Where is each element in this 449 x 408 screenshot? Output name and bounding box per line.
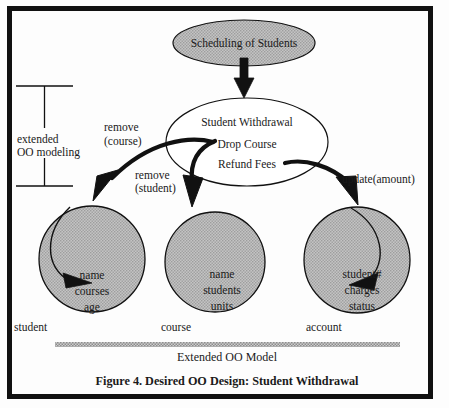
account-circle-shape — [304, 207, 410, 313]
figure-caption: Figure 4. Desired OO Design: Student Wit… — [96, 374, 359, 388]
account-attribute-1: charges — [345, 284, 380, 297]
student-attribute-0: name — [80, 269, 105, 281]
edge-label-remove-course-line1: remove — [104, 121, 138, 133]
bracket-label-line1: extended — [17, 133, 59, 145]
extended-oo-modeling-bracket: extended OO modeling — [16, 86, 80, 186]
operation-drop-course: Drop Course — [217, 138, 276, 151]
edge-remove-course-arrowhead — [93, 170, 118, 201]
course-attribute-0: name — [210, 268, 235, 280]
figure-container: Scheduling of Students Student Withdrawa… — [0, 0, 449, 408]
course-attribute-2: units — [211, 300, 234, 312]
edge-label-update-amount: update(amount) — [342, 173, 415, 186]
edge-label-remove-student-line2: (student) — [135, 182, 176, 195]
extended-oo-model-bar — [55, 342, 400, 347]
class-label-course: course — [161, 321, 191, 333]
student-attribute-2: age — [84, 301, 100, 314]
account-attribute-2: status — [349, 300, 376, 312]
course-circle-shape — [165, 212, 265, 312]
class-node-account: student# charges status account — [304, 207, 410, 333]
class-node-student: name courses age student — [14, 206, 145, 333]
scheduling-ellipse-label: Scheduling of Students — [191, 37, 298, 50]
extended-oo-model-caption: Extended OO Model — [177, 350, 278, 364]
class-label-account: account — [306, 321, 343, 333]
account-attribute-0: student# — [343, 268, 382, 280]
course-attribute-1: students — [203, 284, 241, 296]
student-withdrawal-title: Student Withdrawal — [201, 116, 293, 128]
figure-border — [10, 9, 431, 397]
edge-label-remove-student-line1: remove — [135, 169, 169, 181]
extended-oo-model-bar-group: Extended OO Model — [55, 342, 400, 364]
bracket-label-line2: OO modeling — [17, 146, 80, 159]
oo-design-diagram: Scheduling of Students Student Withdrawa… — [0, 0, 449, 408]
student-attribute-1: courses — [75, 285, 110, 297]
operation-refund-fees: Refund Fees — [218, 158, 276, 170]
class-label-student: student — [14, 321, 48, 333]
edge-remove-student-arrowhead — [183, 175, 203, 207]
edge-label-remove-course-line2: (course) — [104, 135, 142, 148]
class-node-course: name students units course — [161, 212, 265, 333]
